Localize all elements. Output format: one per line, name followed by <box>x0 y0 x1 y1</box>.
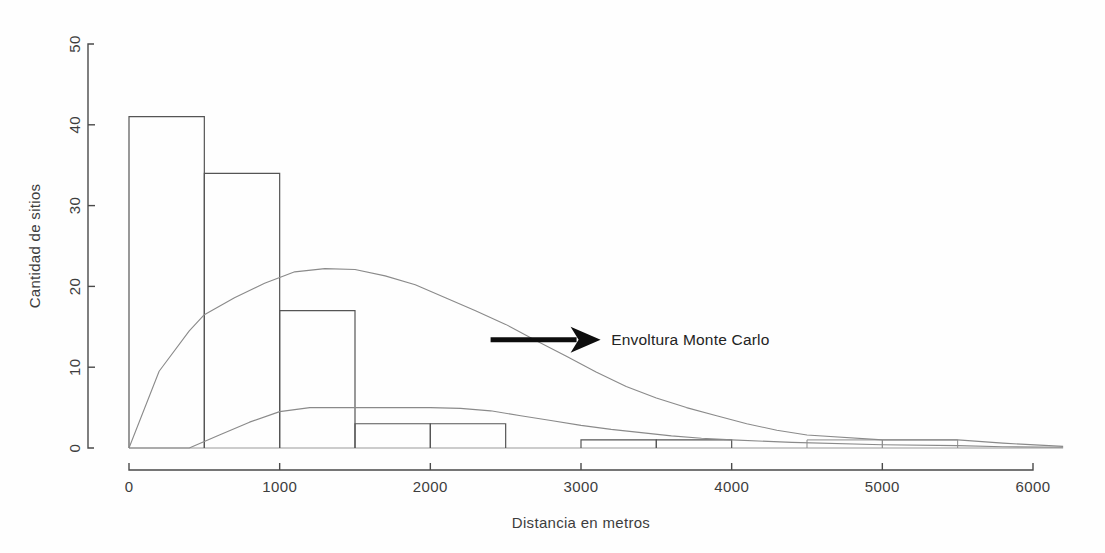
envelope-curve <box>129 269 1063 448</box>
annotation-label: Envoltura Monte Carlo <box>611 331 769 348</box>
y-tick-label: 30 <box>66 197 83 215</box>
y-axis: 01020304050 <box>66 35 95 452</box>
histogram-bar <box>430 424 505 448</box>
histogram-bar <box>882 440 957 448</box>
chart-canvas: 01020304050 0100020003000400050006000 Ca… <box>0 0 1105 553</box>
y-axis-title: Cantidad de sitios <box>26 184 43 309</box>
x-axis-title: Distancia en metros <box>512 514 650 531</box>
envelope-curve <box>129 408 1063 448</box>
x-tick-label: 5000 <box>865 478 900 495</box>
histogram-bar <box>581 440 656 448</box>
monte-carlo-envelopes <box>129 269 1063 448</box>
x-tick-label: 1000 <box>262 478 297 495</box>
x-tick-label: 2000 <box>413 478 448 495</box>
x-tick-label: 0 <box>125 478 134 495</box>
x-tick-label: 6000 <box>1016 478 1051 495</box>
histogram-bar <box>280 311 355 448</box>
x-axis: 0100020003000400050006000 <box>125 463 1051 495</box>
y-tick-label: 0 <box>66 444 83 453</box>
histogram-bar <box>129 117 204 448</box>
y-tick-label: 10 <box>66 358 83 376</box>
x-tick-label: 4000 <box>714 478 749 495</box>
y-tick-label: 40 <box>66 116 83 134</box>
histogram-chart: 01020304050 0100020003000400050006000 Ca… <box>0 0 1105 553</box>
annotation-arrow <box>491 327 601 353</box>
y-axis-spine <box>88 44 94 448</box>
y-tick-label: 20 <box>66 278 83 296</box>
histogram-bar <box>656 440 731 448</box>
histogram-bars <box>129 117 1063 448</box>
histogram-bar <box>204 173 279 448</box>
histogram-bar <box>355 424 430 448</box>
x-tick-label: 3000 <box>564 478 599 495</box>
y-tick-label: 50 <box>66 35 83 53</box>
